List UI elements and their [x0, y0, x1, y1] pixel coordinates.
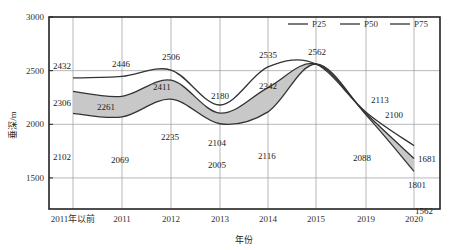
data-label: 2306: [53, 98, 72, 108]
data-label: 2104: [208, 138, 227, 148]
x-axis-ticks: 2011年以前2011201220132014201520192020: [51, 213, 424, 224]
data-label: 2506: [162, 52, 181, 62]
data-label: 2100: [385, 110, 404, 120]
data-label: 2432: [53, 61, 71, 71]
data-label: 2005: [208, 160, 227, 170]
chart: 2432244625062180253525622113180123062261…: [0, 0, 451, 250]
data-label: 2342: [259, 81, 277, 91]
data-label: 2411: [153, 82, 171, 92]
legend: P25P50P75: [288, 19, 429, 29]
legend-label: P75: [414, 19, 429, 29]
data-label: 1681: [418, 154, 436, 164]
data-label: 2180: [211, 91, 230, 101]
x-tick-label: 2015: [307, 214, 326, 224]
data-label: 2069: [111, 155, 130, 165]
x-tick-label: 2013: [211, 214, 230, 224]
y-axis-title: 垂深/m: [7, 111, 18, 139]
data-label: 2261: [97, 102, 115, 112]
y-tick-label: 2000: [26, 119, 45, 129]
data-label: 2535: [259, 50, 278, 60]
legend-label: P25: [312, 19, 327, 29]
y-tick-label: 3000: [26, 12, 45, 22]
x-tick-label: 2011年以前: [51, 213, 96, 224]
data-labels: 2432244625062180253525622113180123062261…: [53, 47, 436, 216]
data-label: 2235: [161, 132, 180, 142]
data-label: 1801: [408, 180, 426, 190]
data-label: 2446: [112, 59, 131, 69]
x-axis-title: 年份: [235, 234, 253, 245]
y-tick-label: 2500: [26, 66, 45, 76]
x-tick-label: 2012: [162, 214, 180, 224]
data-label: 2116: [258, 151, 276, 161]
x-tick-label: 2019: [357, 214, 376, 224]
x-tick-label: 2014: [259, 214, 278, 224]
data-label: 2113: [371, 95, 389, 105]
legend-label: P50: [364, 19, 379, 29]
data-label: 2102: [53, 152, 71, 162]
data-label: 2088: [353, 153, 372, 163]
data-label: 2562: [308, 47, 326, 57]
x-tick-label: 2011: [113, 214, 131, 224]
y-tick-label: 1500: [26, 173, 45, 183]
x-tick-label: 2020: [405, 214, 424, 224]
